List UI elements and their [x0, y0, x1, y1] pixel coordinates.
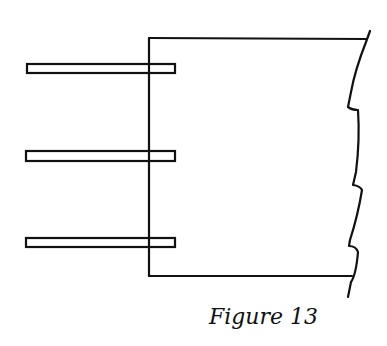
break-line [348, 31, 370, 297]
figure-diagram [0, 0, 387, 346]
figure-caption: Figure 13 [0, 304, 387, 329]
bottom-plate [26, 238, 175, 247]
middle-plate [26, 151, 175, 161]
top-plate [27, 64, 175, 73]
frame-top-edge [149, 38, 367, 39]
